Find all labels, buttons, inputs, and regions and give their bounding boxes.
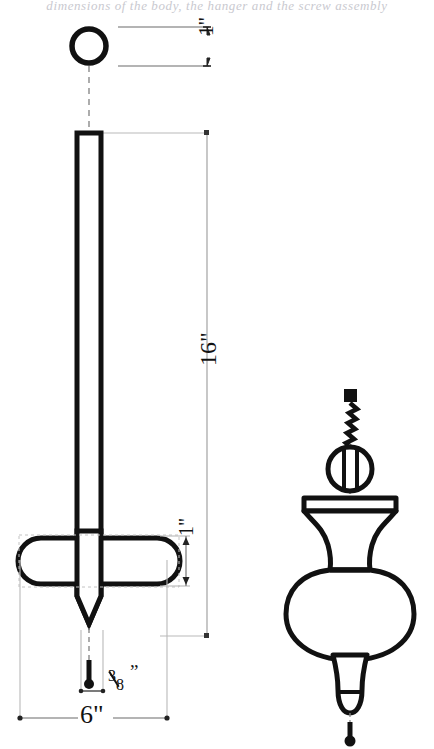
dim-endpoint-16-bottom xyxy=(204,633,209,638)
top-ring xyxy=(72,29,106,63)
finial-neck xyxy=(304,511,396,570)
drill-bit-head xyxy=(344,389,357,402)
dim-arrow-cross-lower xyxy=(183,577,190,585)
dim-arrow-top-lower xyxy=(207,58,210,66)
finial-drop xyxy=(333,655,367,713)
technical-drawing-canvas xyxy=(0,0,434,749)
fraction-denominator: 8 xyxy=(116,677,124,693)
drawing-sheet: dimensions of the body, the hanger and t… xyxy=(0,0,434,749)
dim-endpoint-6-left xyxy=(17,715,22,720)
centerline-dot-left xyxy=(84,679,94,689)
finial-bulb xyxy=(286,570,414,660)
screw-head xyxy=(328,447,372,491)
dim-endpoint-6-right xyxy=(164,715,169,720)
dimension-label-spike-length: 16" xyxy=(196,332,220,366)
dim-endpoint-frac-left xyxy=(79,689,84,694)
dim-endpoint-16-top xyxy=(204,130,209,135)
dim-arrow-cross-upper xyxy=(183,537,190,545)
dim-endpoint-frac-right xyxy=(101,689,106,694)
dimension-label-crossbar-height: 1" xyxy=(176,518,196,536)
dimension-label-spike-width: 3 8 ” xyxy=(108,668,136,690)
centerline-dot-right xyxy=(345,736,356,747)
inch-mark: ” xyxy=(130,661,138,682)
spike-over-crossbar xyxy=(77,531,101,624)
dimension-label-top-diameter: 1" xyxy=(196,17,217,36)
fraction-group: 3 8 xyxy=(108,668,128,690)
dimension-label-crossbar-width: 6" xyxy=(80,702,104,728)
